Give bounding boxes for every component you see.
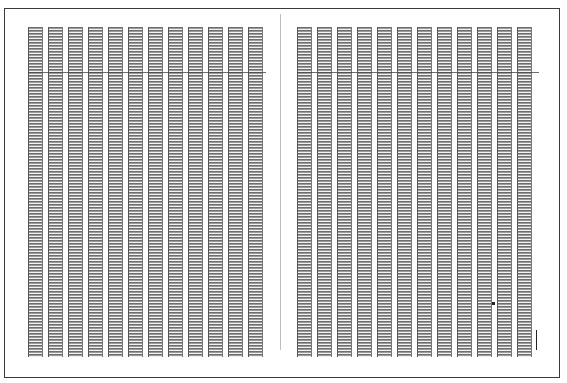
page-gutter: [280, 14, 281, 350]
table-column: [188, 27, 203, 357]
table-column: [228, 27, 243, 357]
table-column: [48, 27, 63, 357]
table-column: [148, 27, 163, 357]
table-column: [337, 27, 352, 357]
table-column: [108, 27, 123, 357]
scan-edge-mark: [536, 330, 537, 350]
left-page: [28, 27, 266, 357]
table-column: [377, 27, 392, 357]
table-column: [68, 27, 83, 357]
table-column: [128, 27, 143, 357]
scan-speck: [492, 302, 495, 305]
table-column: [208, 27, 223, 357]
table-column: [28, 27, 43, 357]
table-column: [517, 27, 532, 357]
table-column: [397, 27, 412, 357]
table-column: [248, 27, 263, 357]
table-column: [88, 27, 103, 357]
document-label: Two facing pages of a dense 12-column ta…: [0, 0, 1, 1]
table-column: [417, 27, 432, 357]
table-column: [317, 27, 332, 357]
table-column: [357, 27, 372, 357]
table-column: [437, 27, 452, 357]
table-column: [457, 27, 472, 357]
table-column: [497, 27, 512, 357]
table-column: [297, 27, 312, 357]
header-rule: [28, 72, 266, 73]
table-column: [168, 27, 183, 357]
table-column: [477, 27, 492, 357]
header-rule: [297, 72, 539, 73]
right-page: [297, 27, 539, 357]
